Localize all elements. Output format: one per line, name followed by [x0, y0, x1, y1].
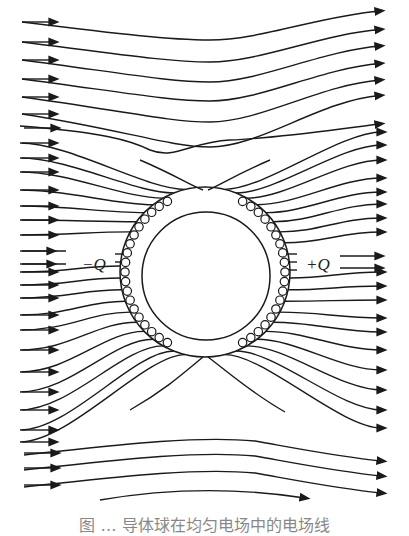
- field-line: [20, 278, 120, 285]
- field-line: [20, 190, 153, 205]
- positive-charge-marker: [247, 202, 255, 210]
- positive-charge-marker: [272, 231, 280, 239]
- figure-caption: 图 … 导体球在均匀电场中的电场线: [0, 512, 409, 536]
- field-line: [100, 491, 305, 500]
- negative-charge-marker: [123, 249, 131, 257]
- field-line: [20, 124, 380, 153]
- negative-charge-marker: [135, 223, 143, 231]
- positive-charge-marker: [280, 277, 288, 285]
- positive-charge-marker: [254, 328, 262, 336]
- field-line: [225, 355, 382, 428]
- field-line: [236, 351, 382, 410]
- negative-charge-marker: [163, 338, 171, 346]
- negative-charge-marker: [121, 277, 129, 285]
- positive-charge-marker: [276, 240, 284, 248]
- positive-charge-marker: [279, 249, 287, 257]
- positive-charge-marker: [261, 215, 269, 223]
- field-line: [20, 172, 163, 198]
- positive-charge-marker: [280, 258, 288, 266]
- field-line: [22, 46, 380, 82]
- field-line: [285, 232, 382, 243]
- field-line: [140, 160, 203, 190]
- positive-charge-label: +Q: [306, 256, 330, 273]
- field-line: [20, 351, 174, 430]
- negative-charge-marker: [141, 321, 149, 329]
- positive-charge-marker: [238, 197, 246, 205]
- field-line: [20, 346, 163, 410]
- negative-charge-marker: [121, 268, 129, 276]
- field-line: [24, 454, 382, 476]
- negative-charge-marker: [121, 258, 129, 266]
- negative-charge-marker: [126, 296, 134, 304]
- positive-charge-marker: [238, 338, 246, 346]
- negative-charge-marker: [155, 333, 163, 341]
- negative-charge-marker: [141, 215, 149, 223]
- negative-charge-marker: [155, 202, 163, 210]
- field-line: [266, 192, 382, 213]
- negative-charge-marker: [126, 240, 134, 248]
- negative-charge-marker: [130, 231, 138, 239]
- field-line: [20, 143, 185, 189]
- field-line: [290, 272, 382, 278]
- positive-charge-marker: [247, 333, 255, 341]
- negative-charge-marker: [135, 313, 143, 321]
- positive-charge-marker: [261, 321, 269, 329]
- conductor-shell: [120, 187, 290, 357]
- conductor-inner-surface: [142, 212, 270, 340]
- positive-charge-marker: [281, 268, 289, 276]
- field-line: [288, 286, 382, 290]
- field-line: [20, 355, 185, 442]
- negative-charge-marker: [148, 328, 156, 336]
- induced-charges: [121, 197, 289, 347]
- field-line: [266, 331, 382, 350]
- field-line: [257, 339, 382, 370]
- negative-charge-marker: [148, 208, 156, 216]
- negative-charge-label: −Q: [82, 256, 106, 273]
- field-line: [24, 471, 382, 493]
- positive-charge-marker: [254, 208, 262, 216]
- field-line: [20, 301, 125, 315]
- positive-charge-marker: [267, 223, 275, 231]
- positive-charge-marker: [276, 296, 284, 304]
- negative-charge-marker: [130, 305, 138, 313]
- negative-charge-marker: [123, 287, 131, 295]
- field-line: [257, 178, 382, 205]
- field-line: [22, 30, 380, 63]
- field-line: [208, 357, 285, 412]
- field-line: [20, 331, 144, 372]
- positive-charge-marker: [279, 287, 287, 295]
- field-line: [130, 357, 203, 410]
- field-line: [236, 145, 382, 193]
- positive-charge-marker: [267, 313, 275, 321]
- field-line: [24, 439, 382, 461]
- field-line: [208, 160, 270, 190]
- field-line: [274, 322, 382, 332]
- field-line: [280, 312, 382, 318]
- field-line: [285, 300, 382, 301]
- field-line: [20, 290, 122, 298]
- field-line: [22, 11, 380, 40]
- positive-charge-marker: [272, 305, 280, 313]
- negative-charge-marker: [163, 197, 171, 205]
- field-line: [20, 206, 144, 213]
